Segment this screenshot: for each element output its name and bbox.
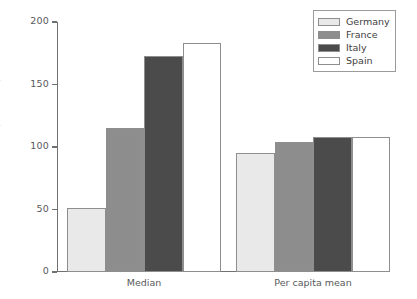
legend-swatch-germany — [318, 18, 340, 26]
x-axis-label: Per capita mean — [274, 277, 351, 288]
legend-label-italy: Italy — [346, 43, 367, 53]
legend-swatch-italy — [318, 44, 340, 52]
bar-spain-per-capita-mean — [352, 137, 391, 272]
bar-france-per-capita-mean — [275, 142, 314, 272]
y-tick-label: 100 — [30, 140, 49, 151]
bar-germany-median — [67, 208, 106, 272]
x-axis-label: Median — [127, 277, 162, 288]
legend-item[interactable]: Italy — [318, 41, 390, 54]
bar-germany-per-capita-mean — [236, 153, 275, 272]
y-tick-label: 200 — [30, 15, 49, 26]
legend-swatch-france — [318, 31, 340, 39]
legend: Germany France Italy Spain — [313, 10, 396, 72]
bar-chart: ('000 Euro) 050100150200 MedianPer capit… — [0, 0, 417, 299]
legend-item[interactable]: France — [318, 28, 390, 41]
bar-france-median — [106, 128, 145, 272]
y-tick-label: 0 — [43, 265, 49, 276]
bar-italy-median — [144, 56, 183, 272]
y-tick-label: 50 — [37, 203, 50, 214]
bar-italy-per-capita-mean — [313, 137, 352, 272]
legend-item[interactable]: Germany — [318, 15, 390, 28]
legend-label-germany: Germany — [346, 17, 390, 27]
legend-label-spain: Spain — [346, 56, 373, 66]
bar-spain-median — [183, 43, 222, 272]
legend-label-france: France — [346, 30, 378, 40]
y-tick-label: 150 — [30, 78, 49, 89]
legend-swatch-spain — [318, 57, 340, 65]
legend-item[interactable]: Spain — [318, 54, 390, 67]
y-axis-title: ('000 Euro) — [0, 78, 1, 128]
